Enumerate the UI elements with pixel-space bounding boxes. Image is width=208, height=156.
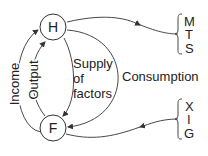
leakage-t: T: [185, 27, 193, 42]
supply-label-line2: of: [73, 71, 84, 86]
injection-line: [140, 119, 178, 127]
injection-i: I: [187, 112, 191, 127]
supply-label-line1: Supply: [73, 56, 113, 71]
income-label: Income: [7, 63, 22, 106]
injection-g: G: [184, 126, 194, 141]
leakage-s: S: [185, 41, 194, 56]
leakage-brace: [175, 14, 182, 54]
leakage-arrow: [67, 17, 140, 25]
consumption-label: Consumption: [122, 69, 199, 84]
leakage-line: [138, 24, 178, 34]
household-label: H: [48, 19, 58, 35]
firm-label: F: [49, 120, 58, 136]
injection-brace: [175, 99, 182, 139]
diagram-canvas: H F Income Output Supply of factors Cons…: [0, 0, 208, 156]
supply-label-line3: factors: [73, 86, 113, 101]
injection-arrow: [66, 127, 140, 137]
circular-flow-diagram: H F Income Output Supply of factors Cons…: [0, 0, 208, 156]
output-label: Output: [26, 60, 41, 99]
